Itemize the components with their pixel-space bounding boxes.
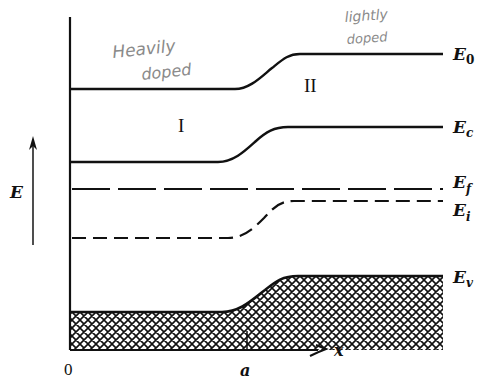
svg-text:Ef: Ef — [452, 172, 473, 196]
level-Ei — [72, 201, 443, 238]
annotation-doped-right: doped — [346, 29, 388, 47]
band-diagram: E I II Heavily doped lightly doped E0 Ec… — [0, 0, 485, 387]
level-Ec — [70, 127, 443, 162]
label-Ev: Ev — [452, 267, 474, 290]
label-Ef: Ef — [452, 172, 473, 196]
annotation-doped-left: doped — [140, 60, 193, 84]
x-tick-label-a: a — [240, 361, 250, 380]
svg-text:Ei: Ei — [452, 200, 471, 224]
x-axis-label: x — [333, 341, 344, 360]
label-Ec: Ec — [452, 117, 474, 140]
label-E0: E0 — [452, 44, 474, 67]
annotation-heavily: Heavily — [111, 35, 177, 62]
svg-text:E0: E0 — [452, 44, 474, 67]
svg-text:Ev: Ev — [452, 267, 474, 290]
region-II-label: II — [304, 75, 317, 96]
svg-text:Ec: Ec — [452, 117, 474, 140]
region-I-label: I — [178, 115, 184, 136]
label-Ei: Ei — [452, 200, 471, 224]
origin-label: 0 — [64, 360, 73, 379]
annotation-lightly: lightly — [344, 6, 389, 25]
y-axis-label: E — [9, 182, 24, 202]
